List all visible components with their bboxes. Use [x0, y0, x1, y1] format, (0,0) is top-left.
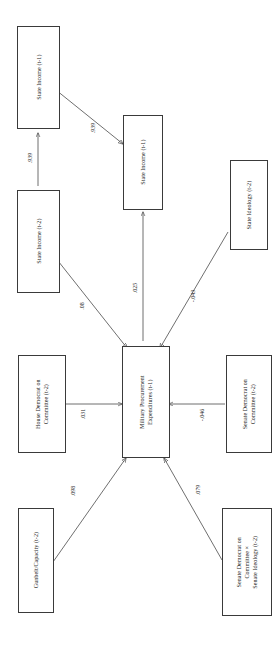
node-label: Senate Democrat on Committee × Senate Id…: [235, 536, 260, 589]
node-label: State Income (t-1): [34, 55, 42, 100]
edge-state-income-t1-to-mid: [51, 86, 123, 144]
node-senate-dem-x-ideology-t2[interactable]: Senate Democrat on Committee × Senate Id…: [222, 508, 272, 616]
edge-label-state-income-t2-to-military: .08: [79, 302, 85, 309]
edge-gunbelt-to-military: [53, 458, 126, 562]
node-house-dem-committee-t2[interactable]: House Democrat on Committee (t-2): [18, 355, 66, 453]
node-state-income-t1-top[interactable]: State Income (t-1): [17, 26, 60, 129]
edge-label-state-ideology-to-military: -.043: [190, 290, 196, 302]
node-label: State Ideology (t-2): [245, 181, 253, 230]
node-label: Gunbelt/Capacity (t-2): [32, 532, 40, 588]
node-gunbelt-capacity-t2[interactable]: Gunbelt/Capacity (t-2): [18, 508, 54, 613]
node-state-ideology-t2[interactable]: State Ideology (t-2): [230, 160, 268, 250]
node-state-income-t2[interactable]: State Income (t-2): [17, 190, 60, 293]
node-label: House Democrat on Committee (t-2): [34, 379, 50, 429]
edge-senate-interaction-to-military: [164, 458, 222, 560]
edge-label-state-income-t1-to-mid: .939: [90, 123, 96, 133]
node-label: State Income (t-2): [34, 219, 42, 264]
node-label: Senate Democrat on Committee (t-2): [241, 379, 257, 429]
node-state-income-t1-mid[interactable]: State Income (t-1): [123, 115, 163, 210]
diagram-canvas: State Income (t-1) State Income (t-2) St…: [0, 0, 273, 649]
node-senate-dem-committee-t2[interactable]: Senate Democrat on Committee (t-2): [226, 355, 272, 453]
edge-label-state-income-t2-to-t1: .939: [27, 153, 33, 163]
edge-label-house-dem-to-military: .031: [80, 409, 86, 419]
edge-label-gunbelt-to-military: .098: [70, 486, 76, 496]
node-label: Military Procurement Expenditures (t-1): [138, 375, 154, 429]
edge-label-senate-dem-to-military: -.046: [199, 409, 205, 421]
edge-label-senate-interaction-to-military: .079: [195, 485, 201, 495]
node-label: State Income (t-1): [139, 140, 147, 185]
edge-label-military-to-state-income-mid: .025: [132, 283, 138, 293]
edge-state-income-t2-to-military: [51, 252, 127, 348]
node-military-procurement-t1[interactable]: Military Procurement Expenditures (t-1): [122, 346, 170, 458]
